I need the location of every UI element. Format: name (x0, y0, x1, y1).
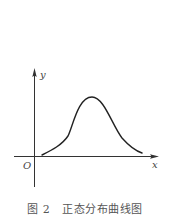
normal-distribution-figure: y O x 图 2正态分布曲线图 (0, 0, 170, 224)
figure-number: 图 2 (27, 203, 50, 216)
normal-curve (42, 97, 142, 155)
x-axis-label: x (152, 159, 158, 170)
figure-caption: 图 2正态分布曲线图 (0, 200, 170, 216)
figure-title: 正态分布曲线图 (62, 203, 143, 216)
y-axis-label: y (39, 69, 46, 80)
plot-area: y O x (0, 0, 170, 224)
origin-label: O (23, 160, 31, 171)
